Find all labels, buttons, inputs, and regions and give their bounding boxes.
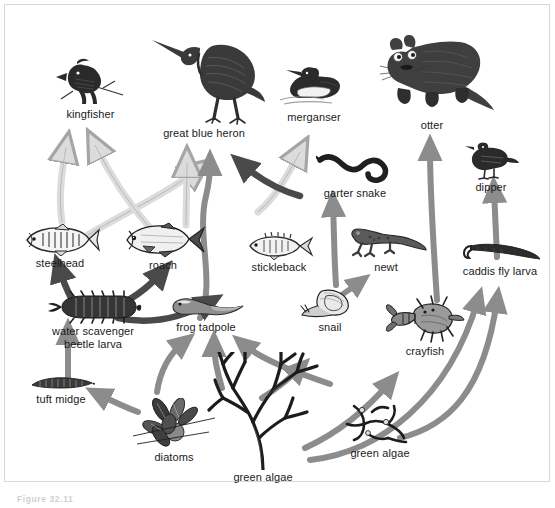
steelhead-icon: [19, 224, 101, 256]
node-roach[interactable]: roach: [120, 222, 206, 272]
node-dipper[interactable]: dipper: [462, 140, 520, 194]
node-stickleback[interactable]: stickleback: [243, 232, 315, 274]
node-frog-tadpole-label: frog tadpole: [176, 321, 235, 334]
kingfisher-icon: [53, 57, 129, 107]
node-dipper-label: dipper: [475, 181, 506, 194]
node-green-algae-small[interactable]: green algae: [342, 400, 418, 460]
node-garter-snake[interactable]: garter snake: [314, 148, 396, 200]
node-newt-label: newt: [374, 261, 398, 274]
crayfish-icon: [385, 294, 465, 344]
node-frog-tadpole[interactable]: frog tadpole: [165, 296, 247, 334]
node-crayfish[interactable]: crayfish: [384, 294, 466, 358]
node-caddis-fly-larva[interactable]: caddis fly larva: [456, 240, 544, 278]
great-blue-heron-icon: [142, 26, 266, 126]
green-algae-small-icon: [344, 400, 416, 446]
node-green-algae-small-label: green algae: [350, 447, 409, 460]
green-algae-icon: [207, 352, 319, 470]
node-crayfish-label: crayfish: [406, 345, 445, 358]
stickleback-icon: [244, 232, 314, 260]
otter-icon: [368, 30, 496, 118]
node-garter-snake-label: garter snake: [324, 187, 386, 200]
node-water-scavenger-beetle-larva[interactable]: water scavenger beetle larva: [34, 290, 152, 350]
frog-tadpole-icon: [167, 296, 245, 320]
node-green-algae-large-label: green algae: [233, 471, 292, 484]
caddis-fly-larva-icon: [459, 240, 541, 264]
node-water-scavenger-beetle-larva-label: water scavenger beetle larva: [52, 325, 134, 350]
node-diatoms-label: diatoms: [154, 451, 193, 464]
node-merganser[interactable]: merganser: [272, 62, 356, 124]
tuft-midge-icon: [26, 374, 96, 392]
node-stickleback-label: stickleback: [252, 261, 307, 274]
link-diatoms-to-frog-tadpole: [157, 342, 184, 392]
node-kingfisher-label: kingfisher: [66, 108, 114, 121]
node-newt[interactable]: newt: [343, 226, 429, 274]
node-steelhead-label: steelhead: [36, 257, 85, 270]
garter-snake-icon: [316, 148, 394, 186]
merganser-icon: [274, 62, 354, 110]
node-snail[interactable]: snail: [298, 286, 362, 334]
link-crayfish-to-otter: [430, 148, 437, 300]
node-steelhead[interactable]: steelhead: [18, 224, 102, 270]
node-snail-label: snail: [318, 321, 341, 334]
newt-icon: [344, 226, 428, 260]
node-tuft-midge-label: tuft midge: [36, 393, 85, 406]
link-newt-to-garter-snake: [333, 204, 336, 285]
node-roach-label: roach: [149, 259, 177, 272]
figure-caption: Figure 32.11: [17, 494, 73, 504]
node-great-blue-heron-label: great blue heron: [163, 127, 245, 140]
food-web-figure: kingfisher: [0, 0, 555, 508]
node-otter[interactable]: otter: [366, 30, 498, 132]
node-otter-label: otter: [421, 119, 444, 132]
roach-icon: [121, 222, 205, 258]
dipper-icon: [463, 140, 519, 180]
node-great-blue-heron[interactable]: great blue heron: [140, 26, 268, 140]
node-kingfisher[interactable]: kingfisher: [48, 57, 133, 121]
node-caddis-fly-larva-label: caddis fly larva: [463, 265, 537, 278]
node-merganser-label: merganser: [287, 111, 340, 124]
node-green-algae-large[interactable]: green algae: [205, 352, 321, 484]
water-scavenger-beetle-larva-icon: [44, 290, 142, 324]
node-tuft-midge[interactable]: tuft midge: [24, 374, 98, 406]
snail-icon: [300, 286, 360, 320]
